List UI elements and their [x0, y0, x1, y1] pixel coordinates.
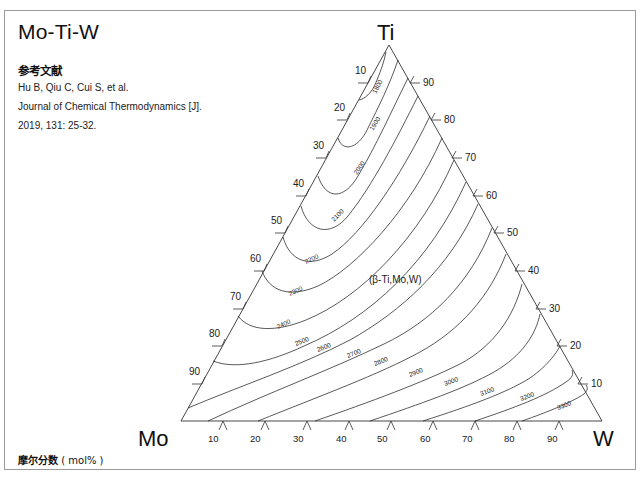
ternary-diagram: Ti Mo W 10 20 30 40 50 60 70 80 90 90	[0, 0, 641, 485]
isotherm-label: 2000	[352, 159, 366, 175]
right-tick-label: 10	[591, 378, 603, 389]
left-tick-label: 80	[209, 328, 221, 339]
bottom-tick-label: 70	[462, 433, 473, 444]
left-tick-label: 60	[250, 253, 262, 264]
isotherm-contours	[188, 52, 587, 421]
vertex-label-mo: Mo	[138, 426, 169, 451]
right-tick-label: 60	[486, 190, 498, 201]
isotherm-3000	[370, 314, 540, 421]
bottom-tick-label: 10	[208, 433, 219, 444]
isotherm-label: 1900	[368, 115, 382, 131]
bottom-edge-ticks	[219, 421, 563, 430]
isotherm-label: 3200	[519, 390, 535, 402]
left-tick-label: 30	[313, 140, 325, 151]
isotherm-label: 2600	[316, 341, 332, 353]
isotherm-label: 2100	[330, 207, 345, 222]
left-tick-label: 20	[334, 102, 346, 113]
bottom-tick-label: 20	[250, 433, 261, 444]
bottom-tick-label: 50	[377, 433, 388, 444]
left-tick-label: 70	[230, 291, 242, 302]
right-tick-label: 40	[528, 265, 540, 276]
isotherm-2400	[238, 160, 454, 329]
isotherm-label: 2700	[346, 347, 362, 359]
isotherm-2300	[262, 138, 442, 292]
phase-region-label: (β-Ti,Mo,W)	[369, 274, 422, 285]
bottom-tick-label: 90	[547, 433, 558, 444]
bottom-tick-label: 80	[504, 433, 515, 444]
isotherm-2200	[283, 116, 430, 261]
isotherm-label: 3300	[556, 399, 572, 411]
left-tick-label: 90	[189, 366, 201, 377]
isotherm-label: 2300	[287, 284, 303, 297]
right-tick-label: 30	[549, 303, 561, 314]
isotherm-1900	[338, 60, 398, 147]
bottom-tick-label: 30	[293, 433, 304, 444]
isotherm-label: 2800	[373, 355, 389, 367]
isotherm-label: 2400	[275, 317, 291, 330]
left-tick-label: 40	[293, 178, 305, 189]
isotherm-label: 2900	[408, 366, 424, 378]
right-tick-label: 70	[465, 152, 477, 163]
isotherm-label: 2500	[294, 335, 310, 347]
isotherm-label: 3000	[443, 375, 459, 387]
isotherm-2000	[318, 78, 408, 194]
bottom-tick-label: 60	[420, 433, 431, 444]
left-tick-label: 50	[271, 215, 283, 226]
right-tick-label: 80	[444, 114, 456, 125]
bottom-edge-tick-labels: 10 20 30 40 50 60 70 80 90	[208, 433, 558, 444]
left-tick-label: 10	[355, 65, 367, 76]
right-tick-label: 90	[423, 77, 435, 88]
vertex-label-ti: Ti	[377, 20, 395, 45]
right-tick-label: 50	[507, 227, 519, 238]
bottom-tick-label: 40	[336, 433, 347, 444]
right-edge-tick-labels: 90 80 70 60 50 40 30 20 10	[423, 77, 603, 389]
right-tick-label: 20	[570, 340, 582, 351]
right-edge-ticks	[410, 76, 588, 384]
vertex-label-w: W	[593, 426, 614, 451]
isotherm-label: 3100	[479, 385, 495, 397]
isotherm-label: 2200	[303, 252, 319, 265]
isotherm-label: 1800	[371, 78, 384, 94]
